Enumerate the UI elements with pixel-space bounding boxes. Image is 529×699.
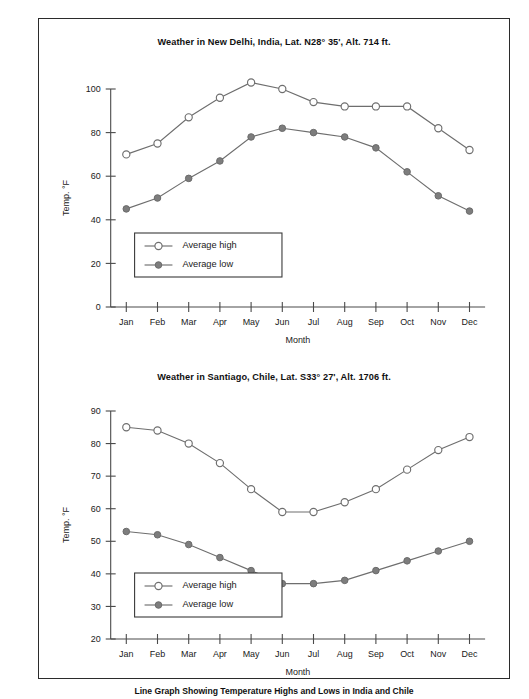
- legend-label: Average high: [182, 240, 236, 250]
- x-tick-label: Jan: [119, 649, 133, 659]
- legend-item-average-high: Average high: [145, 240, 237, 250]
- x-tick-label: Oct: [400, 317, 414, 327]
- x-tick-label: Mar: [181, 649, 196, 659]
- data-point-low-May: [248, 134, 255, 141]
- y-tick-label: 40: [91, 569, 101, 579]
- data-point-high-May: [248, 79, 255, 86]
- x-tick-label: Apr: [213, 649, 227, 659]
- data-point-low-Apr: [217, 554, 224, 561]
- x-tick-label: Aug: [337, 317, 353, 327]
- y-axis-title-new-delhi: Temp. °F: [61, 179, 71, 216]
- data-point-low-Jul: [310, 129, 317, 136]
- x-axis-title-santiago: Month: [285, 667, 310, 677]
- series-line-high: [126, 427, 469, 512]
- line-chart-new-delhi: 020406080100 JanFebMarAprMayJunJulAugSep…: [39, 55, 509, 351]
- x-tick-label: Nov: [430, 317, 446, 327]
- data-point-low-Nov: [435, 548, 442, 555]
- x-tick-label: May: [243, 317, 260, 327]
- x-tick-label: Oct: [400, 649, 414, 659]
- data-point-low-Feb: [154, 195, 161, 202]
- data-point-high-Aug: [341, 499, 348, 506]
- y-tick-label: 0: [96, 302, 101, 312]
- data-point-high-Dec: [466, 433, 473, 440]
- data-point-low-Feb: [154, 531, 161, 538]
- legend-label: Average high: [182, 580, 236, 590]
- data-point-low-Oct: [404, 558, 411, 565]
- y-tick-label: 20: [91, 259, 101, 269]
- figure-frame: Weather in New Delhi, India, Lat. N28° 3…: [38, 18, 510, 679]
- data-point-low-Sep: [373, 567, 380, 574]
- x-tick-label: Sep: [368, 649, 384, 659]
- y-tick-group-santiago: 2030405060708090: [91, 406, 116, 644]
- legend-new-delhi: Average highAverage low: [135, 233, 282, 277]
- data-point-high-Sep: [372, 486, 379, 493]
- x-tick-group-santiago: JanFebMarAprMayJunJulAugSepOctNovDec: [119, 634, 478, 659]
- x-tick-label: Jan: [119, 317, 133, 327]
- x-tick-label: Feb: [150, 317, 165, 327]
- plot-area-new-delhi: 020406080100 JanFebMarAprMayJunJulAugSep…: [39, 55, 509, 351]
- y-tick-label: 100: [86, 84, 101, 94]
- x-tick-label: Apr: [213, 317, 227, 327]
- data-point-high-Mar: [185, 440, 192, 447]
- x-tick-label: Jul: [308, 649, 319, 659]
- data-point-high-Jan: [123, 424, 130, 431]
- data-point-high-Feb: [154, 140, 161, 147]
- data-point-high-Jul: [310, 508, 317, 515]
- y-tick-label: 40: [91, 215, 101, 225]
- y-tick-label: 80: [91, 439, 101, 449]
- data-point-high-Jun: [279, 508, 286, 515]
- data-point-low-Aug: [341, 577, 348, 584]
- data-point-high-May: [248, 486, 255, 493]
- x-tick-label: Jul: [308, 317, 319, 327]
- x-tick-group-new-delhi: JanFebMarAprMayJunJulAugSepOctNovDec: [119, 302, 478, 327]
- y-tick-label: 70: [91, 471, 101, 481]
- chart-title-new-delhi: Weather in New Delhi, India, Lat. N28° 3…: [39, 37, 509, 47]
- data-point-low-Jan: [123, 528, 130, 535]
- chart-panel-santiago: Weather in Santiago, Chile, Lat. S33° 27…: [39, 351, 509, 678]
- y-tick-label: 90: [91, 406, 101, 416]
- x-tick-label: Feb: [150, 649, 165, 659]
- data-point-high-Jan: [123, 151, 130, 158]
- data-point-low-Aug: [341, 134, 348, 141]
- x-tick-label: Aug: [337, 649, 353, 659]
- data-point-low-Mar: [185, 175, 192, 182]
- data-point-high-Dec: [466, 146, 473, 153]
- y-tick-label: 60: [91, 504, 101, 514]
- data-point-high-Nov: [435, 446, 442, 453]
- figure-caption: Line Graph Showing Temperature Highs and…: [38, 686, 510, 699]
- y-tick-label: 80: [91, 128, 101, 138]
- series-group-new-delhi: [123, 79, 473, 215]
- y-tick-label: 50: [91, 536, 101, 546]
- data-point-high-Jul: [310, 98, 317, 105]
- legend-marker-high: [155, 582, 162, 589]
- data-point-low-Apr: [217, 158, 224, 165]
- series-group-santiago: [123, 424, 473, 587]
- series-line-low: [126, 128, 469, 211]
- data-point-low-Jun: [279, 125, 286, 132]
- data-point-high-Aug: [341, 103, 348, 110]
- x-tick-label: Dec: [462, 649, 478, 659]
- x-tick-label: Mar: [181, 317, 196, 327]
- line-chart-santiago: 2030405060708090 JanFebMarAprMayJunJulAu…: [39, 389, 509, 678]
- legend-marker-low: [155, 602, 162, 609]
- x-axis-title-new-delhi: Month: [285, 335, 310, 345]
- legend-label: Average low: [182, 599, 233, 609]
- x-tick-label: Nov: [430, 649, 446, 659]
- legend-marker-low: [155, 262, 162, 269]
- data-point-high-Jun: [279, 85, 286, 92]
- data-point-low-Dec: [466, 208, 473, 215]
- series-line-high: [126, 82, 469, 154]
- data-point-high-Oct: [404, 466, 411, 473]
- x-tick-label: Sep: [368, 317, 384, 327]
- x-tick-label: Jun: [275, 317, 289, 327]
- chart-title-santiago: Weather in Santiago, Chile, Lat. S33° 27…: [39, 372, 509, 382]
- data-point-low-Jul: [310, 580, 317, 587]
- x-tick-label: Dec: [462, 317, 478, 327]
- x-tick-label: Jun: [275, 649, 289, 659]
- data-point-high-Feb: [154, 427, 161, 434]
- legend-item-average-high: Average high: [145, 580, 237, 590]
- y-tick-label: 20: [91, 634, 101, 644]
- legend-santiago: Average highAverage low: [135, 573, 282, 617]
- data-point-high-Oct: [404, 103, 411, 110]
- x-tick-label: May: [243, 649, 260, 659]
